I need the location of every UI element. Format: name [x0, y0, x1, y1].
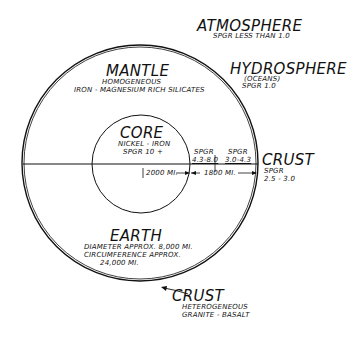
arrowhead-icon: [191, 171, 196, 175]
crust-right-title: CRUST: [262, 153, 314, 168]
mantle-thickness-label: 1800 MI.: [204, 170, 236, 177]
earth-diameter: DIAMETER APPROX. 8,000 MI.: [84, 244, 193, 251]
atmosphere-spgr: SpGr LESS THAN 1.0: [213, 33, 290, 40]
crust-right-spgr-label: SpGr: [264, 168, 284, 175]
crust-composition: GRANITE - BASALT: [182, 312, 250, 319]
crust-heterogeneous: HETEROGENEOUS: [182, 304, 248, 311]
hydrosphere-spgr: SpGr 1.0: [242, 83, 276, 90]
earth-title: EARTH: [110, 229, 162, 244]
arrowhead-icon: [252, 171, 257, 175]
mantle-composition: IRON - MAGNESIUM RICH SILICATES: [74, 87, 205, 94]
crust-right-spgr-value: 2.5 - 3.0: [264, 176, 295, 183]
crust-bottom-title: CRUST: [172, 289, 224, 304]
outer-mantle-spgr-value: 3.0-4.3: [225, 157, 251, 164]
mantle-homogeneous: HOMOGENEOUS: [102, 79, 161, 86]
core-radius-label: 2000 MI.: [146, 170, 178, 177]
core-spgr: SpGr 10 +: [123, 149, 163, 156]
mantle-title: MANTLE: [106, 64, 169, 79]
earth-circumference: CIRCUMFERENCE APPROX.: [84, 252, 181, 259]
outer-mantle-spgr-label: SpGr: [228, 149, 248, 156]
inner-mantle-spgr-label: SpGr: [194, 149, 214, 156]
inner-mantle-spgr-value: 4.3-8.0: [192, 157, 218, 164]
arrowhead-icon: [161, 286, 167, 291]
core-title: CORE: [120, 126, 163, 141]
core-composition: NICKEL - IRON: [118, 141, 170, 148]
earth-circumference-value: 24,000 MI.: [100, 260, 139, 267]
